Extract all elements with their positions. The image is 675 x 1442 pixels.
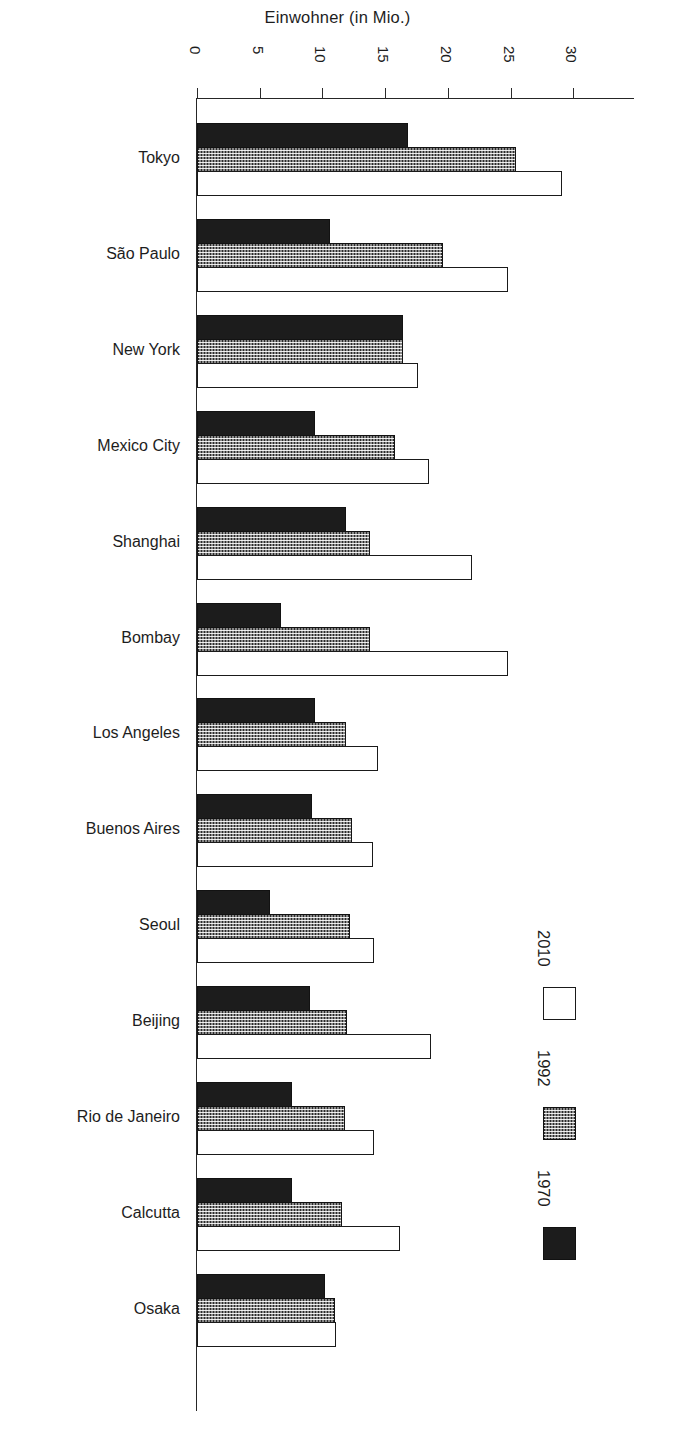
bar-1992-s-o-paulo (197, 243, 443, 268)
bar-1992-seoul (197, 914, 350, 939)
bar-1970-beijing (197, 986, 310, 1011)
bar-1992-buenos-aires (197, 818, 352, 843)
bar-2010-bombay (197, 651, 508, 676)
category-label: Calcutta (0, 1204, 180, 1222)
bar-2010-s-o-paulo (197, 267, 508, 292)
x-axis-tick (385, 88, 386, 99)
bar-chart: Einwohner (in Mio.) 051015202530 2010199… (0, 0, 675, 1442)
bar-1992-rio-de-janeiro (197, 1106, 345, 1131)
legend-swatch-1992 (543, 1107, 576, 1140)
x-axis-tick-label: 0 (187, 46, 204, 54)
bar-2010-new-york (197, 363, 418, 388)
chart-legend: 201019921970 (520, 930, 630, 1290)
bar-2010-los-angeles (197, 746, 378, 771)
chart-title: Einwohner (in Mio.) (0, 8, 675, 27)
bar-1970-osaka (197, 1274, 325, 1299)
bar-2010-tokyo (197, 171, 562, 196)
bar-1970-new-york (197, 315, 403, 340)
bar-1992-osaka (197, 1298, 335, 1323)
category-label: Bombay (0, 629, 180, 647)
bar-1992-new-york (197, 339, 403, 364)
bar-1970-shanghai (197, 507, 346, 532)
x-axis-tick-label: 15 (375, 46, 392, 63)
bar-1970-buenos-aires (197, 794, 312, 819)
x-axis-tick-label: 5 (250, 46, 267, 54)
bar-1992-tokyo (197, 147, 516, 172)
x-axis-line (196, 98, 634, 99)
legend-swatch-2010 (543, 987, 576, 1020)
bar-2010-mexico-city (197, 459, 429, 484)
x-axis-tick-label: 10 (312, 46, 329, 63)
category-label: Shanghai (0, 533, 180, 551)
bar-2010-seoul (197, 938, 374, 963)
x-axis-tick (260, 88, 261, 99)
bar-2010-buenos-aires (197, 842, 373, 867)
category-label: Beijing (0, 1012, 180, 1030)
bar-1970-bombay (197, 603, 281, 628)
x-axis-tick (197, 88, 198, 99)
x-axis-tick (322, 88, 323, 99)
bar-2010-rio-de-janeiro (197, 1130, 374, 1155)
bar-1992-beijing (197, 1010, 347, 1035)
bar-1992-shanghai (197, 531, 370, 556)
category-label: Seoul (0, 916, 180, 934)
bar-2010-osaka (197, 1322, 336, 1347)
x-axis-tick (573, 88, 574, 99)
category-label: Mexico City (0, 437, 180, 455)
bar-1970-calcutta (197, 1178, 292, 1203)
bar-1970-mexico-city (197, 411, 315, 436)
bar-1970-s-o-paulo (197, 219, 330, 244)
bar-2010-beijing (197, 1034, 431, 1059)
bar-1992-mexico-city (197, 435, 395, 460)
category-label: New York (0, 341, 180, 359)
bar-2010-shanghai (197, 555, 472, 580)
bar-1992-calcutta (197, 1202, 342, 1227)
legend-label-1992: 1992 (534, 1050, 553, 1087)
x-axis-tick-label: 20 (438, 46, 455, 63)
legend-label-1970: 1970 (534, 1170, 553, 1207)
bar-1970-tokyo (197, 123, 408, 148)
category-label: Rio de Janeiro (0, 1108, 180, 1126)
category-label: Los Angeles (0, 724, 180, 742)
x-axis-tick-label: 30 (563, 46, 580, 63)
bar-1970-rio-de-janeiro (197, 1082, 292, 1107)
x-axis-tick (448, 88, 449, 99)
legend-label-2010: 2010 (534, 930, 553, 967)
bar-1992-los-angeles (197, 722, 346, 747)
legend-swatch-1970 (543, 1227, 576, 1260)
bar-1992-bombay (197, 627, 370, 652)
category-label: São Paulo (0, 245, 180, 263)
bar-1970-los-angeles (197, 698, 315, 723)
x-axis-tick-label: 25 (501, 46, 518, 63)
bar-1970-seoul (197, 890, 270, 915)
category-label: Tokyo (0, 149, 180, 167)
bar-2010-calcutta (197, 1226, 400, 1251)
category-label: Osaka (0, 1300, 180, 1318)
x-axis-tick (511, 88, 512, 99)
category-label: Buenos Aires (0, 820, 180, 838)
